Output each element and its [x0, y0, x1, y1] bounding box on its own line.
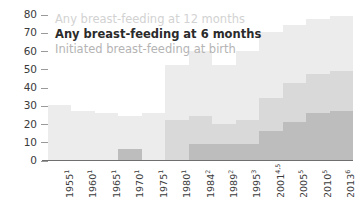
legend-item-initiated: Initiated breast-feeding at birth: [55, 42, 261, 57]
y-axis-tick-mark: [41, 106, 48, 107]
y-axis: 01020304050607080: [0, 14, 48, 160]
bar-12mo: [306, 113, 329, 160]
bar-group: [259, 14, 282, 160]
y-axis-tick-mark: [41, 15, 48, 16]
x-axis-tick-label: 19651: [111, 164, 122, 197]
x-axis-tick-label: 19801: [181, 164, 192, 197]
bar-12mo: [330, 111, 353, 160]
x-axis-tick-label: 19701: [134, 164, 145, 197]
y-axis-tick: 10: [20, 136, 48, 148]
y-axis-tick-mark: [41, 51, 48, 52]
legend-label-6-months: Any breast-feeding at 6 months: [55, 27, 261, 41]
bar-group: [306, 14, 329, 160]
bar-12mo: [189, 144, 212, 160]
bar-12mo: [212, 144, 235, 160]
y-axis-tick: 60: [20, 45, 48, 57]
bar-group: [283, 14, 306, 160]
y-axis-tick-label: 40: [20, 81, 37, 93]
y-axis-tick: 70: [20, 26, 48, 38]
y-axis-tick: 20: [20, 118, 48, 130]
y-axis-tick-label: 10: [20, 136, 37, 148]
x-axis: 1955119601196511970119751198011984219892…: [48, 162, 353, 197]
y-axis-tick: 50: [20, 63, 48, 75]
y-axis-tick: 40: [20, 81, 48, 93]
x-axis-tick-label: 20014,5: [275, 164, 286, 197]
x-axis-tick-label: 20055: [298, 164, 309, 197]
y-axis-tick-label: 80: [20, 8, 37, 20]
chart-screenshot: 01020304050607080 1955119601196511970119…: [0, 0, 359, 197]
x-axis-tick-label: 19842: [205, 164, 216, 197]
y-axis-tick-mark: [41, 142, 48, 143]
x-axis-tick-label: 19892: [228, 164, 239, 197]
y-axis-tick-mark: [41, 88, 48, 89]
x-axis-tick-label: 19601: [87, 164, 98, 197]
x-axis-tick-label: 19953: [251, 164, 262, 197]
y-axis-tick-mark: [41, 33, 48, 34]
bar-group: [330, 14, 353, 160]
y-axis-tick: 30: [20, 99, 48, 111]
x-axis-line: [42, 160, 353, 161]
bar-12mo: [118, 149, 141, 160]
x-axis-tick-label: 19551: [64, 164, 75, 197]
bar-12mo: [259, 131, 282, 160]
y-axis-tick-label: 60: [20, 45, 37, 57]
y-axis-tick-mark: [41, 124, 48, 125]
legend-label-initiated: Initiated breast-feeding at birth: [55, 42, 236, 56]
bar-init: [48, 105, 71, 160]
bar-6mo: [165, 120, 188, 160]
y-axis-tick-label: 20: [20, 118, 37, 130]
x-axis-tick-label: 20136: [345, 164, 356, 197]
y-axis-tick-label: 30: [20, 99, 37, 111]
y-axis-tick-label: 50: [20, 63, 37, 75]
legend-label-12-months: Any breast-feeding at 12 months: [55, 12, 245, 26]
chart-legend: Any breast-feeding at 12 months Any brea…: [55, 12, 261, 57]
bar-init: [142, 113, 165, 160]
x-axis-tick-label: 19751: [158, 164, 169, 197]
y-axis-tick-mark: [41, 69, 48, 70]
bar-12mo: [283, 122, 306, 160]
y-axis-tick: 80: [20, 8, 48, 20]
bar-init: [71, 111, 94, 160]
bar-12mo: [236, 144, 259, 160]
legend-item-12-months: Any breast-feeding at 12 months: [55, 12, 261, 27]
y-axis-tick-label: 70: [20, 26, 37, 38]
x-axis-tick-label: 20105: [322, 164, 333, 197]
y-axis-tick-label: 0: [20, 154, 37, 166]
legend-item-6-months: Any breast-feeding at 6 months: [55, 27, 261, 42]
bar-init: [95, 113, 118, 160]
